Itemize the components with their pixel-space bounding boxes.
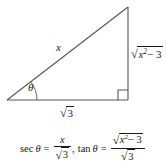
tan-function-name: tan (78, 143, 93, 154)
radical-sqrt3-tan: √3 (121, 149, 135, 163)
radicand-adjacent: 3 (66, 106, 74, 119)
tan-denominator-radicand: 3 (127, 149, 135, 162)
triangle-diagram: x θ √3 √x2− 3 (0, 0, 166, 126)
radical-sqrt-x2-minus-3: √x2− 3 (131, 46, 163, 61)
triangle-hypotenuse-line (7, 7, 128, 100)
hypotenuse-label: x (56, 42, 61, 53)
angle-label-text: θ (28, 81, 33, 93)
sec-equals-sign: = (41, 143, 53, 154)
radical-sqrt3-sec: √3 (56, 147, 70, 161)
tan-numerator-rest: − 3 (128, 134, 142, 145)
triangle-svg (0, 0, 166, 126)
radicand-opposite-rest: − 3 (147, 47, 161, 59)
opposite-side-label: √x2− 3 (131, 46, 163, 61)
hypotenuse-label-text: x (56, 41, 61, 53)
sec-fraction: x √3 (54, 134, 72, 161)
sec-numerator: x (58, 134, 67, 146)
tan-numerator-radicand: x2− 3 (119, 133, 143, 146)
radical-sqrt-x2-minus-3-tan: √x2− 3 (113, 133, 143, 147)
tan-equals-sign: = (98, 143, 110, 154)
tan-numerator: √x2− 3 (111, 133, 145, 148)
adjacent-side-label: √3 (60, 106, 74, 120)
sec-function-name: sec (20, 143, 35, 154)
radicand-opposite: x2− 3 (137, 46, 162, 60)
tan-fraction: √x2− 3 √3 (111, 133, 145, 163)
tan-denominator: √3 (119, 149, 137, 164)
sec-equation: sec θ = x √3 (20, 134, 72, 161)
sec-denominator: √3 (54, 147, 72, 162)
tan-equation: tan θ = √x2− 3 √3 (78, 133, 146, 163)
formula-inner: sec θ = x √3 , tan θ = (20, 133, 146, 163)
angle-label: θ (28, 82, 33, 93)
sec-denominator-radicand: 3 (61, 147, 69, 160)
radical-sqrt3-base: √3 (60, 106, 74, 120)
right-angle-marker-icon (118, 90, 128, 100)
figure-root: x θ √3 √x2− 3 sec θ = x (0, 0, 166, 168)
formula-row: sec θ = x √3 , tan θ = (0, 128, 166, 168)
